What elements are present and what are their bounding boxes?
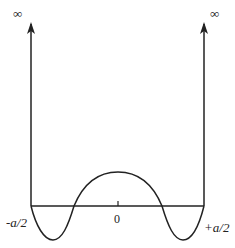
diagram-canvas: ∞ ∞ -a/2 0 +a/2	[0, 0, 235, 248]
right-edge-label: +a/2	[204, 220, 230, 235]
left-edge-label: -a/2	[6, 215, 27, 230]
left-infinity-label: ∞	[13, 6, 22, 21]
center-label: 0	[114, 212, 120, 226]
right-infinity-label: ∞	[210, 6, 219, 21]
